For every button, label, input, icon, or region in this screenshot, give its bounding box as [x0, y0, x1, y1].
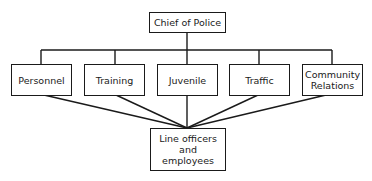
juvenile-box: Juvenile	[157, 64, 218, 96]
community-relations-box: Community Relations	[302, 64, 363, 96]
community-relations-label: Community Relations	[305, 69, 360, 91]
training-label: Training	[96, 75, 134, 86]
line-officers-label: Line officers and employees	[157, 133, 219, 166]
traffic-label: Traffic	[245, 75, 274, 86]
personnel-box: Personnel	[11, 64, 72, 96]
personnel-label: Personnel	[18, 75, 64, 86]
traffic-box: Traffic	[229, 64, 290, 96]
training-box: Training	[84, 64, 145, 96]
chief-of-police-box: Chief of Police	[149, 12, 226, 33]
chief-of-police-label: Chief of Police	[154, 17, 221, 28]
line-officers-box: Line officers and employees	[150, 128, 226, 171]
juvenile-label: Juvenile	[169, 75, 206, 86]
